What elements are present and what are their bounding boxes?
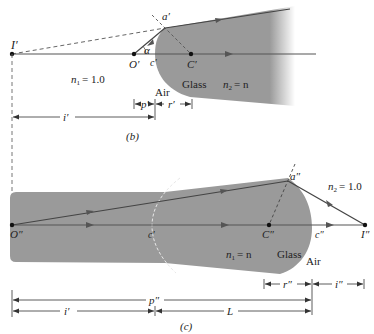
axis-arrow-icon [326,222,334,228]
label-left-vertex-c: c′ [148,229,155,240]
label-n2-c: n2= 1.0 [328,180,362,194]
label-air-b: Air [155,86,170,98]
label-object-b: O′ [129,58,140,70]
label-image-b: I′ [10,38,18,52]
point-object-b [132,52,136,56]
label-object-c: O″ [10,228,23,240]
label-glass-c: Glass [277,248,301,260]
label-vertex-b: c′ [150,57,157,68]
label-center-c: C″ [262,228,274,240]
caption-b: (b) [126,130,139,143]
label-n2-b: n2= n [223,78,249,92]
label-p-prime: p′ [140,98,150,110]
label-p-double-prime: p″ [148,294,160,306]
dimension-i-prime-L [13,306,311,316]
label-r-prime: r′ [168,98,175,110]
caption-c: (c) [180,320,193,333]
virtual-ray-b [12,28,165,54]
point-image-c [363,223,367,227]
label-n1-b: n1= 1.0 [71,73,105,87]
dimension-p-double-prime [12,290,311,317]
point-center-c [267,223,271,227]
label-i-double-prime: i″ [335,278,343,290]
label-refraction-point-c: a″ [290,170,301,182]
point-center-b [189,52,193,56]
label-alpha: α [144,44,150,56]
label-r-double-prime: r″ [283,278,292,290]
glass-body-c [10,178,312,274]
label-n1-c: n1= n [226,248,252,262]
label-right-vertex-c: c″ [315,229,324,240]
panel-b: I′ O′ c′ C′ a′ α n1= 1.0 Air Glass n2= n… [10,6,316,143]
label-center-b: C′ [187,58,197,70]
label-refraction-point-b: a′ [162,10,171,22]
dimension-r-i-double-prime [264,279,364,315]
panel-c: O″ c′ C″ c″ I″ a″ n1= n Glass Air n2= 1.… [10,164,370,333]
label-i-prime-c: i′ [64,305,70,317]
point-object-c [10,223,14,227]
label-i-prime-b: i′ [63,111,69,123]
label-image-c: I″ [360,228,370,240]
label-glass-b: Glass [182,78,206,90]
label-length-L: L [226,305,233,317]
label-air-c: Air [306,255,321,267]
thick-lens-refraction-diagram: I′ O′ c′ C′ a′ α n1= 1.0 Air Glass n2= n… [0,0,374,334]
